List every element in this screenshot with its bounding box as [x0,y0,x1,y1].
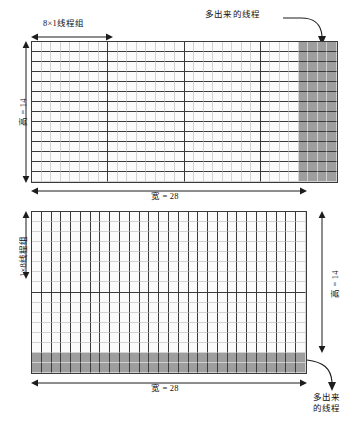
thread-cell [213,82,223,92]
thread-cell [208,333,218,343]
thread-cell [270,102,280,112]
thread-cell [42,142,52,152]
thread-cell [261,152,271,162]
thread-cell [110,293,120,303]
thread-cell [146,172,156,182]
thread-cell [237,222,247,232]
thread-cell [32,242,42,252]
thread-cell [251,172,261,182]
thread-cell [179,232,189,242]
thread-cell [213,72,223,82]
thread-cell [127,82,137,92]
thread-cell [289,122,299,132]
thread-cell [223,82,233,92]
thread-cell [71,272,81,282]
thread-cell [156,142,166,152]
thread-cell [70,112,80,122]
thread-cell [208,323,218,333]
thread-cell [165,52,175,62]
thread-cell [71,343,81,353]
thread-cell [156,82,166,92]
thread-cell [237,212,247,222]
thread-cell [137,152,147,162]
thread-cell [137,132,147,142]
thread-cell [130,282,140,292]
thread-cell [32,333,42,343]
thread-cell [289,142,299,152]
thread-cell [270,92,280,102]
thread-cell [223,152,233,162]
thread-cell [42,272,52,282]
thread-cell [91,222,101,232]
surplus-thread-cell [237,363,247,373]
thread-cell [108,152,118,162]
thread-cell [130,313,140,323]
thread-cell [71,293,81,303]
grid-row [32,222,306,232]
thread-cell [189,343,199,353]
surplus-thread-cell [52,363,62,373]
thread-cell [91,272,101,282]
thread-cell [277,313,287,323]
thread-cell [108,62,118,72]
surplus-thread-cell [189,353,199,363]
thread-cell [120,242,130,252]
thread-cell [146,162,156,172]
thread-cell [159,323,169,333]
thread-cell [242,42,252,52]
thread-cell [61,42,71,52]
surplus-thread-cell [110,353,120,363]
thread-cell [165,152,175,162]
thread-cell [42,333,52,343]
thread-cell [108,82,118,92]
thread-cell [169,262,179,272]
thread-cell [242,142,252,152]
thread-cell [194,162,204,172]
thread-cell [270,152,280,162]
thread-cell [156,72,166,82]
thread-cell [61,52,71,62]
thread-cell [280,102,290,112]
thread-cell [127,102,137,112]
thread-cell [149,252,159,262]
thread-cell [137,52,147,62]
thread-cell [251,122,261,132]
thread-cell [208,293,218,303]
surplus-thread-cell [247,363,257,373]
thread-cell [89,112,99,122]
thread-cell [110,323,120,333]
thread-cell [32,252,42,262]
surplus-thread-cell [91,363,101,373]
surplus-thread-cell [130,363,140,373]
thread-cell [61,212,71,222]
thread-cell [118,52,128,62]
thread-cell [179,293,189,303]
thread-cell [118,72,128,82]
thread-cell [70,132,80,142]
thread-cell [208,222,218,232]
surplus-thread-cell [318,52,328,62]
thread-cell [89,142,99,152]
thread-cell [242,72,252,82]
thread-cell [91,252,101,262]
thread-cell [242,162,252,172]
thread-cell [179,272,189,282]
thread-cell [270,52,280,62]
thread-cell [208,313,218,323]
thread-cell [120,222,130,232]
thread-cell [194,112,204,122]
thread-cell [223,142,233,152]
surplus-thread-cell [169,363,179,373]
thread-cell [179,282,189,292]
thread-cell [32,142,42,152]
thread-cell [208,282,218,292]
thread-cell [120,323,130,333]
thread-cell [179,303,189,313]
thread-cell [286,303,296,313]
thread-cell [108,72,118,82]
thread-cell [156,112,166,122]
thread-cell [194,82,204,92]
thread-cell [42,162,52,172]
thread-cell [32,293,42,303]
surplus-thread-cell [308,162,318,172]
